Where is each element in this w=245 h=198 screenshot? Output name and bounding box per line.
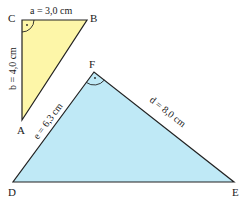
- vertex-label-c: C: [8, 12, 15, 24]
- right-angle-dot-f: [94, 77, 96, 79]
- side-label-a: a = 3,0 cm: [30, 5, 73, 16]
- right-angle-dot-c: [26, 24, 28, 26]
- vertex-label-e: E: [232, 186, 239, 198]
- geometry-diagram: C B A a = 3,0 cm b = 4,0 cm F D E e = 6,…: [0, 0, 245, 198]
- vertex-label-b: B: [90, 12, 97, 24]
- side-label-b: b = 4,0 cm: [7, 47, 18, 90]
- vertex-label-a: A: [17, 124, 25, 136]
- vertex-label-f: F: [89, 58, 95, 70]
- vertex-label-d: D: [8, 186, 16, 198]
